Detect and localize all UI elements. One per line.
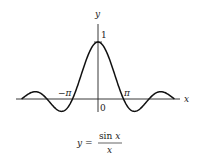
origin-label: 0 [100, 103, 106, 113]
x-axis-label: x [184, 94, 189, 104]
chart: y x 1 −π π 0 y = sin x x [0, 0, 202, 163]
y-axis-label: y [94, 9, 101, 19]
caption-denominator: x [107, 145, 112, 155]
y-tick-label-1: 1 [101, 30, 107, 40]
caption-numerator: sin x [99, 131, 120, 141]
x-tick-label-pi: π [123, 88, 131, 98]
x-tick-label-neg-pi: −π [58, 88, 73, 98]
caption-lhs: y = [76, 138, 93, 148]
